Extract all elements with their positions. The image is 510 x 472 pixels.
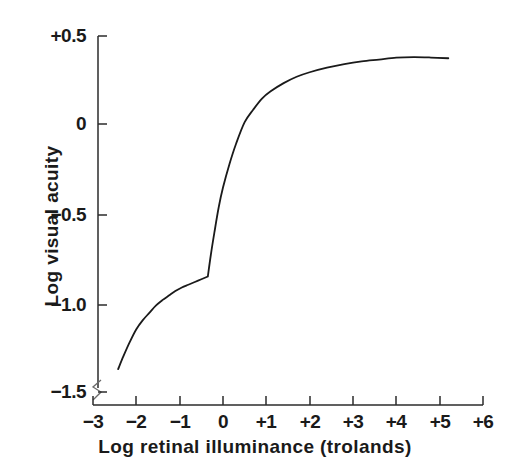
- x-tick-label-2: −1: [170, 411, 191, 433]
- y-tick-marks: [98, 36, 107, 392]
- axis-lines: [93, 36, 483, 405]
- x-tick-marks: [93, 396, 483, 405]
- x-tick-label-1: −2: [126, 411, 147, 433]
- axis-break-icon: [93, 380, 101, 400]
- x-axis-title: Log retinal illuminance (trolands): [0, 436, 510, 458]
- x-tick-label-7: +4: [386, 411, 407, 433]
- y-tick-label-4: −1.5: [18, 381, 86, 403]
- x-tick-label-3: 0: [218, 411, 228, 433]
- x-tick-label-6: +3: [343, 411, 364, 433]
- x-tick-label-4: +1: [256, 411, 277, 433]
- figure-container: +0.5 0 −0.5 −1.0 −1.5 −3 −2 −1 0 +1 +2 +…: [0, 0, 510, 472]
- x-tick-label-9: +6: [473, 411, 494, 433]
- y-tick-label-0: +0.5: [18, 25, 86, 47]
- x-tick-label-8: +5: [430, 411, 451, 433]
- y-axis-title: Log visual acuity: [41, 86, 63, 366]
- data-series-line: [118, 57, 448, 369]
- x-tick-label-5: +2: [300, 411, 321, 433]
- x-tick-label-0: −3: [83, 411, 104, 433]
